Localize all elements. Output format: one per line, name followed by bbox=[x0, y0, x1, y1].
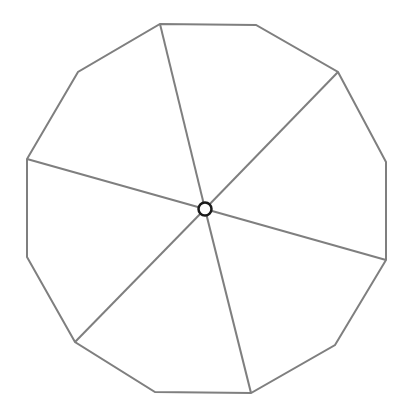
spoke-6 bbox=[27, 159, 205, 209]
dodecagon-diagram bbox=[0, 0, 409, 416]
spoke-4 bbox=[205, 209, 251, 393]
spoke-2 bbox=[205, 72, 338, 209]
spoke-3 bbox=[205, 209, 386, 260]
center-point bbox=[199, 203, 212, 216]
spoke-1 bbox=[160, 24, 205, 209]
spoke-5 bbox=[75, 209, 205, 342]
